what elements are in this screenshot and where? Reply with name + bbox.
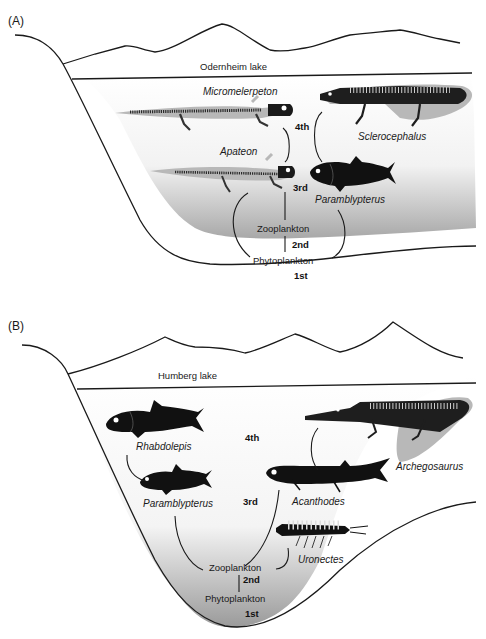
panel-b: (B) Humberg lake Rhabdolepis Paramblypte… — [8, 319, 476, 627]
lake-name-b: Humberg lake — [158, 370, 217, 381]
water-surface-a — [72, 73, 472, 79]
trophic-level-4th-a: 4th — [295, 121, 309, 132]
panel-b-label: (B) — [8, 319, 24, 333]
species-label-sclerocephalus: Sclerocephalus — [358, 131, 426, 142]
mountain-range-b — [68, 322, 463, 374]
zooplankton-label-a: Zooplankton — [257, 223, 309, 234]
trophic-level-3rd-b: 3rd — [243, 496, 258, 507]
trophic-level-2nd-a: 2nd — [292, 239, 309, 250]
species-label-archegosaurus: Archegosaurus — [395, 461, 463, 472]
food-web-diagram: (A) Odernheim lake Micromelerpeton — [0, 0, 486, 639]
phytoplankton-label-a: Phytoplankton — [253, 255, 313, 266]
panel-a: (A) Odernheim lake Micromelerpeton — [8, 14, 476, 281]
species-label-paramblypterus-a: Paramblypterus — [315, 194, 385, 205]
trophic-level-3rd-a: 3rd — [293, 182, 308, 193]
trophic-level-4th-b: 4th — [245, 432, 259, 443]
species-label-acanthodes: Acanthodes — [291, 496, 345, 507]
species-label-paramblypterus-b: Paramblypterus — [143, 498, 213, 509]
trophic-level-1st-b: 1st — [245, 608, 260, 619]
panel-a-label: (A) — [8, 14, 24, 28]
mountain-range-a — [63, 24, 460, 64]
phytoplankton-label-b: Phytoplankton — [205, 593, 265, 604]
species-label-apateon: Apateon — [219, 146, 258, 157]
zooplankton-label-b: Zooplankton — [209, 562, 261, 573]
trophic-level-2nd-b: 2nd — [243, 574, 260, 585]
lake-name-a: Odernheim lake — [200, 61, 267, 72]
trophic-level-1st-a: 1st — [294, 270, 309, 281]
species-label-uronectes: Uronectes — [298, 554, 344, 565]
species-label-micromelerpeton: Micromelerpeton — [203, 86, 278, 97]
species-label-rhabdolepis: Rhabdolepis — [136, 441, 192, 452]
